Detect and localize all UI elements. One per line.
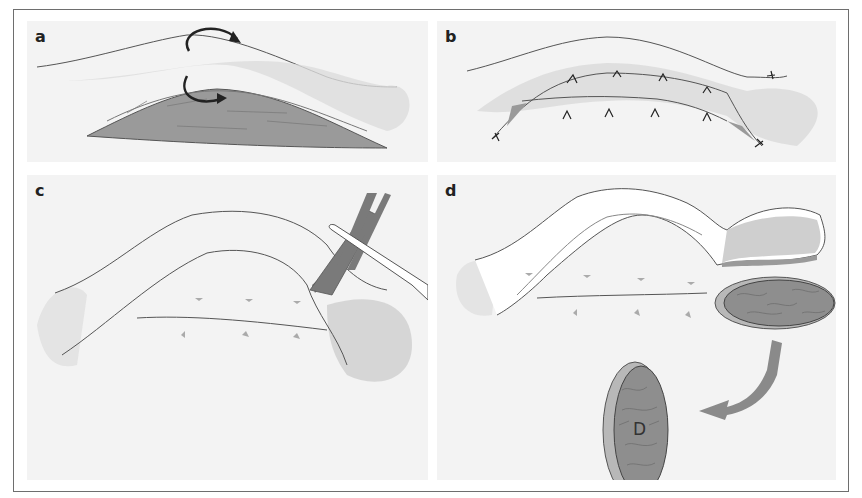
panel-label-a: a xyxy=(35,27,46,46)
panel-label-d: d xyxy=(445,181,456,200)
panel-label-b: b xyxy=(445,27,456,46)
eyelid-rotation-illustration xyxy=(27,21,428,162)
panel-b: b xyxy=(437,21,836,162)
panel-d: d D xyxy=(437,175,836,480)
incision-illustration xyxy=(27,175,428,480)
panel-a: a xyxy=(27,21,428,162)
graft-label: D xyxy=(633,419,646,439)
panel-c: c xyxy=(27,175,428,480)
sutured-eyelid-illustration xyxy=(437,21,836,162)
panel-label-c: c xyxy=(35,181,44,200)
